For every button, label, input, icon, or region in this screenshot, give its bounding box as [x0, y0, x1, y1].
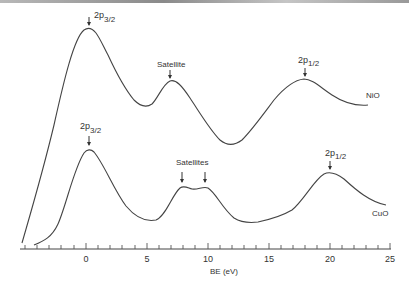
cuo-curve [34, 150, 386, 245]
nio-2p32-label: 2p3/2 [94, 10, 116, 24]
cuo-satellites-label: Satellites [176, 158, 208, 167]
cuo-2p32-label: 2p3/2 [80, 121, 102, 135]
nio-2p12-arrowhead-icon [303, 73, 307, 77]
tick-label-15: 15 [264, 254, 274, 264]
cuo-satellite1-arrowhead-icon [180, 179, 184, 183]
cuo-series-label: CuO [372, 209, 388, 218]
nio-satellite-arrowhead-icon [168, 75, 172, 79]
tick-label-0: 0 [83, 254, 88, 264]
cuo-2p12-arrowhead-icon [328, 166, 332, 170]
tick-label-5: 5 [144, 254, 149, 264]
nio-satellite-label: Satellite [157, 60, 186, 69]
tick-label-10: 10 [203, 254, 213, 264]
cuo-2p32-arrowhead-icon [87, 142, 91, 146]
x-axis-label: BE (eV) [210, 267, 238, 276]
xps-spectra-chart: 0 5 10 15 20 25 BE (eV) 2p3/2 Satellite … [0, 0, 409, 291]
nio-2p32-arrowhead-icon [87, 22, 91, 26]
nio-2p12-label: 2p1/2 [298, 55, 320, 68]
x-axis-ticks [25, 243, 390, 249]
cuo-2p12-label: 2p1/2 [325, 148, 347, 161]
cuo-satellite2-arrowhead-icon [203, 179, 207, 183]
tick-label-20: 20 [325, 254, 335, 264]
tick-label-25: 25 [385, 254, 395, 264]
nio-series-label: NiO [366, 91, 380, 100]
